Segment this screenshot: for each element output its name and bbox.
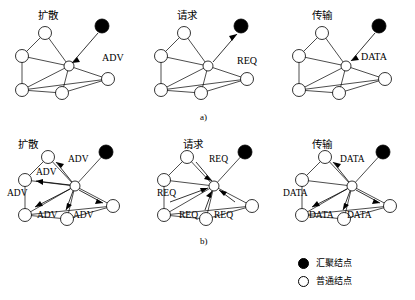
node-top bbox=[319, 151, 332, 164]
node-bottom-left bbox=[158, 209, 171, 222]
node-left bbox=[158, 174, 171, 187]
figure-container: 扩散 ADV bbox=[0, 0, 415, 300]
node-center bbox=[70, 181, 80, 191]
panel-title: 扩散 bbox=[18, 138, 39, 150]
message-label-req-3: REQ bbox=[179, 210, 198, 220]
node-center bbox=[341, 61, 351, 71]
filled-circle-icon bbox=[298, 258, 309, 269]
node-left bbox=[293, 50, 306, 63]
message-label-adv: ADV bbox=[102, 52, 124, 63]
arrowhead bbox=[66, 203, 72, 210]
arrowhead bbox=[206, 191, 212, 198]
hollow-circle-icon bbox=[298, 276, 309, 287]
message-label-adv-2: ADV bbox=[36, 167, 57, 177]
message-arrows-req bbox=[170, 162, 235, 210]
node-top bbox=[39, 27, 52, 40]
message-label-data: DATA bbox=[361, 51, 388, 62]
node-center bbox=[347, 181, 357, 191]
node-left bbox=[16, 50, 29, 63]
panel-a1-flooding: 扩散 ADV bbox=[0, 0, 138, 115]
message-label-data-2: DATA bbox=[283, 188, 308, 198]
panel-b1-diagram: 扩散 ADV ADV ADV ADV ADV bbox=[0, 130, 138, 240]
sink-node bbox=[95, 19, 109, 33]
node-right bbox=[102, 73, 115, 86]
message-label-adv-4: ADV bbox=[37, 210, 58, 220]
panel-b3-transmission: 传输 DATA DATA DATA DATA bbox=[277, 130, 415, 240]
node-left bbox=[296, 174, 309, 187]
panel-title: 请求 bbox=[177, 9, 198, 21]
panel-a2-request: 请求 REQ bbox=[139, 0, 277, 115]
panel-a3-transmission: 传输 DATA bbox=[277, 0, 415, 115]
panel-b2-request: 请求 REQ REQ REQ REQ bbox=[139, 130, 277, 240]
message-arrows-data bbox=[312, 162, 380, 210]
legend-item-sink: 汇聚结点 bbox=[298, 258, 352, 269]
node-top bbox=[42, 151, 55, 164]
message-label-req: REQ bbox=[237, 55, 258, 66]
sink-node bbox=[99, 145, 113, 159]
message-label-data-1: DATA bbox=[340, 154, 365, 164]
arrowhead bbox=[312, 201, 320, 207]
node-right bbox=[241, 73, 254, 86]
panel-a2-diagram: 请求 REQ bbox=[139, 0, 277, 115]
network-nodes bbox=[16, 19, 115, 100]
node-bottom-mid bbox=[56, 87, 69, 100]
node-bottom-left bbox=[16, 84, 29, 97]
node-top bbox=[178, 27, 191, 40]
message-label-adv-5: ADV bbox=[73, 210, 94, 220]
panel-title: 传输 bbox=[312, 138, 333, 150]
message-label-adv-1: ADV bbox=[68, 154, 89, 164]
node-top bbox=[316, 27, 329, 40]
panel-title: 扩散 bbox=[38, 9, 59, 21]
message-label-data-3: DATA bbox=[309, 210, 334, 220]
node-bottom-left bbox=[296, 209, 309, 222]
message-label-req-4: REQ bbox=[214, 210, 233, 220]
panel-b2-diagram: 请求 REQ REQ REQ REQ bbox=[139, 130, 277, 240]
node-right bbox=[246, 200, 259, 213]
sink-node bbox=[376, 145, 390, 159]
message-label-req-2: REQ bbox=[157, 188, 176, 198]
arrowhead bbox=[35, 201, 43, 207]
node-bottom-left bbox=[155, 84, 168, 97]
node-right bbox=[384, 200, 397, 213]
node-bottom-mid bbox=[61, 213, 74, 226]
panel-b3-diagram: 传输 DATA DATA DATA DATA bbox=[277, 130, 415, 240]
node-bottom-mid bbox=[200, 213, 213, 226]
arrowhead bbox=[36, 179, 43, 185]
node-left bbox=[155, 50, 168, 63]
message-label-adv-3: ADV bbox=[7, 188, 28, 198]
panel-a1-diagram: 扩散 ADV bbox=[0, 0, 138, 115]
network-edges bbox=[164, 152, 252, 219]
node-top bbox=[181, 151, 194, 164]
sink-node bbox=[372, 19, 386, 33]
message-label-req-1: REQ bbox=[209, 154, 228, 164]
message-arrow-adv bbox=[72, 33, 98, 63]
node-center bbox=[203, 61, 213, 71]
legend-label-ordinary: 普通结点 bbox=[316, 277, 352, 286]
panel-title: 请求 bbox=[183, 138, 204, 150]
message-label-data-4: DATA bbox=[347, 210, 372, 220]
arrowhead bbox=[229, 34, 237, 41]
node-right bbox=[379, 73, 392, 86]
row-label-b: b) bbox=[200, 236, 208, 246]
node-bottom-left bbox=[19, 209, 32, 222]
node-center bbox=[209, 181, 219, 191]
arrowhead bbox=[343, 203, 349, 210]
row-label-a: a) bbox=[200, 112, 207, 122]
legend-label-sink: 汇聚结点 bbox=[316, 259, 352, 268]
sink-node bbox=[234, 19, 248, 33]
node-bottom-left bbox=[293, 84, 306, 97]
sink-node bbox=[238, 145, 252, 159]
node-bottom-mid bbox=[195, 87, 208, 100]
panel-a3-diagram: 传输 DATA bbox=[277, 0, 415, 115]
legend-item-ordinary: 普通结点 bbox=[298, 276, 352, 287]
node-bottom-mid bbox=[333, 87, 346, 100]
panel-b1-flooding: 扩散 ADV ADV ADV ADV ADV bbox=[0, 130, 138, 240]
node-left bbox=[19, 174, 32, 187]
node-right bbox=[107, 200, 120, 213]
panel-title: 传输 bbox=[312, 9, 333, 21]
message-arrow-req bbox=[213, 34, 237, 62]
